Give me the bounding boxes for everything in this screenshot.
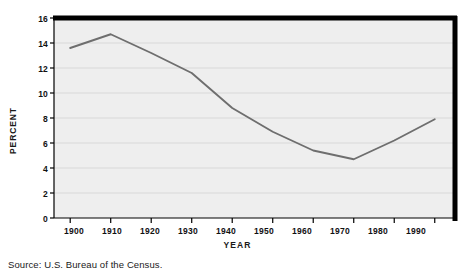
- chart-figure: PERCENT 16 14 12 10 8 6 4 2 0 1900 1910 …: [0, 0, 475, 277]
- source-note: Source: U.S. Bureau of the Census.: [8, 259, 162, 270]
- x-axis-title: YEAR: [0, 240, 475, 250]
- plot-area: [0, 0, 475, 277]
